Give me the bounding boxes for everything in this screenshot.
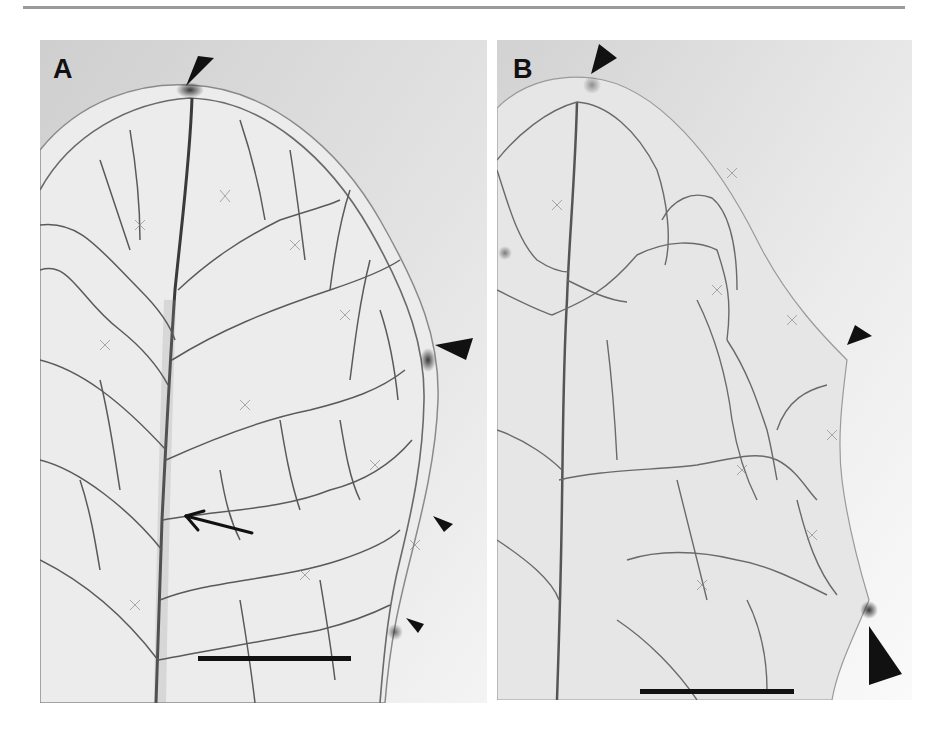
scale-bar-a xyxy=(198,656,351,661)
leaf-micrograph-b xyxy=(497,40,912,700)
panel-label-a: A xyxy=(53,56,73,83)
leaf-micrograph-a xyxy=(40,40,487,703)
panel-b: B xyxy=(497,40,912,700)
panel-label-b: B xyxy=(513,56,533,83)
scale-bar-b xyxy=(640,689,794,694)
top-rule xyxy=(23,6,905,9)
panel-a: A xyxy=(40,40,487,703)
